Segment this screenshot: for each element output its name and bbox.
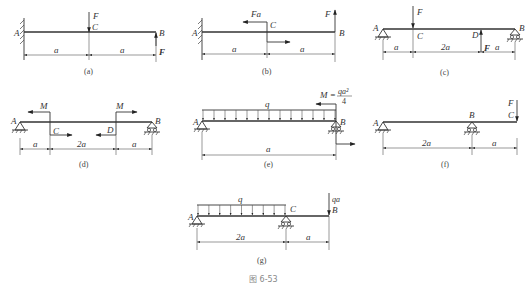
- point-label-b: B: [332, 205, 338, 215]
- point-label-a: A: [191, 28, 198, 38]
- point-label-c: C: [270, 20, 277, 30]
- panel-caption: (b): [262, 67, 272, 76]
- dimension-label: a: [132, 139, 137, 149]
- panel-caption: (f): [441, 160, 449, 169]
- moment-label-prefix: M =: [319, 90, 336, 100]
- force-label: qa: [332, 195, 340, 204]
- point-label-a: A: [372, 23, 379, 33]
- point-label-c: C: [508, 110, 515, 120]
- panel-caption: (a): [84, 67, 93, 76]
- force-label: F: [324, 9, 331, 19]
- couple-moment-d: [96, 112, 137, 135]
- couple-moment-c: [28, 112, 72, 135]
- dimension-label: a: [232, 44, 237, 54]
- point-label-c: C: [53, 126, 60, 136]
- panel-a: A B C F F a a (a): [13, 11, 165, 76]
- panel-caption: (g): [257, 256, 267, 265]
- force-label: F: [416, 7, 423, 17]
- point-label-a: A: [372, 118, 379, 128]
- moment-label: Fa: [250, 9, 261, 19]
- point-label-a: A: [10, 116, 17, 126]
- force-label: F: [483, 43, 490, 53]
- point-label-b: B: [519, 23, 525, 33]
- fixed-support-hatch: [20, 20, 24, 44]
- point-label-c: C: [92, 22, 99, 32]
- dimension-label: a: [495, 42, 500, 52]
- dimension-label: 2a: [422, 138, 432, 148]
- point-label-c: C: [417, 31, 424, 41]
- point-label-b: B: [159, 28, 165, 38]
- panel-caption: (e): [264, 160, 273, 169]
- beam-problems-figure: A B C F F a a (a) A B C Fa F: [0, 0, 528, 290]
- panel-e: A B q M = qa² 4 a (e): [192, 87, 355, 169]
- distributed-load-label: q: [238, 194, 243, 204]
- point-label-d: D: [106, 125, 114, 135]
- dimension-label: 2a: [441, 42, 451, 52]
- panel-caption: (d): [79, 160, 89, 169]
- point-label-b: B: [340, 117, 346, 127]
- moment-label-denominator: 4: [342, 97, 346, 106]
- distributed-load-arrows: [203, 110, 335, 120]
- panel-d: A B C D M M a 2a a (d): [10, 101, 161, 169]
- point-label-a: A: [187, 212, 194, 222]
- panel-b: A B C Fa F a a (b): [191, 9, 345, 76]
- point-label-b: B: [339, 28, 345, 38]
- dimension-label: a: [300, 44, 305, 54]
- dimension-label: a: [33, 139, 38, 149]
- fixed-support-hatch: [198, 20, 202, 44]
- dimension-label: a: [54, 45, 59, 55]
- force-label: F: [92, 11, 99, 21]
- distributed-load-arrows: [198, 205, 285, 215]
- force-label: F: [507, 98, 514, 108]
- distributed-load-label: q: [265, 99, 270, 109]
- dimension-label: a: [492, 138, 497, 148]
- dimension-label: 2a: [77, 139, 87, 149]
- point-label-d: D: [471, 30, 479, 40]
- panel-f: A B C F 2a a (f): [372, 98, 517, 169]
- point-label-b: B: [469, 110, 475, 120]
- dimension-label: a: [266, 144, 271, 154]
- dimension-label: a: [306, 232, 311, 242]
- force-label: F: [158, 47, 165, 57]
- panel-c: A B C D F F a 2a a (c): [372, 6, 525, 77]
- dimension-label: a: [120, 45, 125, 55]
- point-label-a: A: [13, 28, 20, 38]
- figure-caption: 图 6-53: [249, 275, 278, 284]
- point-label-c: C: [290, 204, 297, 214]
- point-label-a: A: [192, 117, 199, 127]
- panel-caption: (c): [440, 68, 449, 77]
- roller-support: [464, 122, 480, 135]
- moment-label: M: [115, 101, 124, 111]
- moment-label-numerator: qa²: [338, 87, 349, 96]
- roller-support: [278, 216, 294, 229]
- point-label-b: B: [155, 116, 161, 126]
- dimension-label: a: [394, 42, 399, 52]
- panel-g: A B C q qa 2a a (g): [187, 193, 340, 265]
- dimension-label: 2a: [236, 232, 246, 242]
- moment-label: M: [39, 101, 48, 111]
